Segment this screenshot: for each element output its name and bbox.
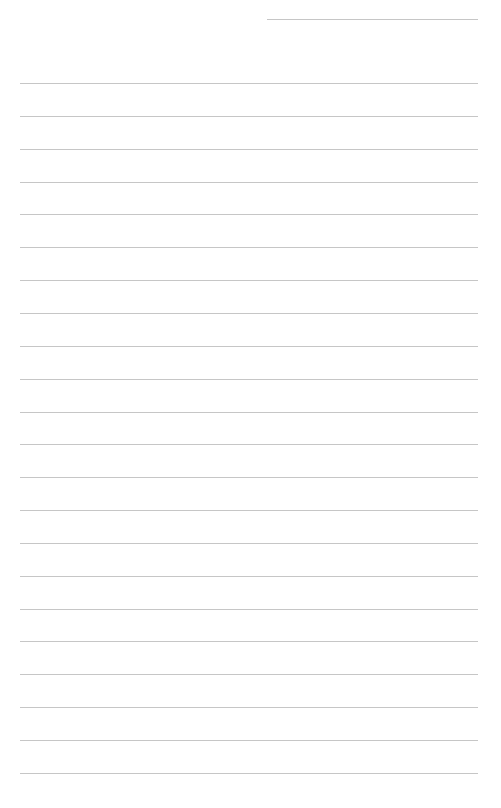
ruled-line: [20, 477, 478, 478]
ruled-line: [20, 773, 478, 774]
ruled-line: [20, 214, 478, 215]
ruled-line: [20, 412, 478, 413]
ruled-line: [20, 641, 478, 642]
ruled-line: [20, 116, 478, 117]
ruled-line: [20, 83, 478, 84]
ruled-line: [20, 280, 478, 281]
header-date-line: [267, 19, 478, 20]
ruled-line: [20, 576, 478, 577]
ruled-line: [20, 674, 478, 675]
ruled-line: [20, 149, 478, 150]
ruled-line: [20, 247, 478, 248]
ruled-line: [20, 510, 478, 511]
ruled-line: [20, 313, 478, 314]
ruled-line: [20, 444, 478, 445]
ruled-line: [20, 543, 478, 544]
ruled-line: [20, 609, 478, 610]
ruled-line: [20, 182, 478, 183]
ruled-line: [20, 379, 478, 380]
ruled-line: [20, 707, 478, 708]
ruled-line: [20, 740, 478, 741]
ruled-line: [20, 346, 478, 347]
lined-page: [0, 0, 501, 808]
